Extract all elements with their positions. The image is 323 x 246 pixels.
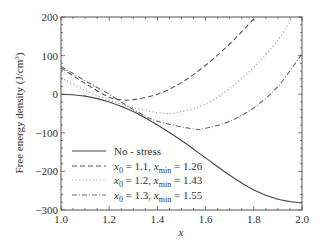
y-tick-label: −200 (35, 165, 58, 177)
curve-x0-1.1 (61, 15, 259, 100)
svg-text:x0 = 1.3, xmin = 1.55: x0 = 1.3, xmin = 1.55 (113, 189, 203, 204)
x-tick-label: 1.4 (151, 213, 165, 225)
x-tick-label: 1.6 (199, 213, 213, 225)
curve-x0-1.2 (61, 17, 292, 114)
svg-text:No - stress: No - stress (114, 145, 161, 157)
legend-item-x0-1.3: x0 = 1.3, xmin = 1.55 (72, 189, 203, 204)
x-axis-title: x (178, 226, 184, 238)
x-tick-label: 1.2 (102, 213, 116, 225)
free-energy-chart: 1.01.21.41.61.82.0−300−200−1000100200 x … (0, 0, 323, 246)
legend-item-x0-1.2: x0 = 1.2, xmin = 1.43 (72, 174, 203, 189)
y-tick-label: 0 (53, 88, 59, 100)
y-tick-label: 200 (42, 11, 59, 23)
y-axis-title: Free energy density (J/cm3) (13, 52, 26, 173)
svg-text:x0 = 1.1, xmin = 1.26: x0 = 1.1, xmin = 1.26 (113, 160, 203, 175)
curve-no-stress (61, 94, 302, 203)
legend: No - stress x0 = 1.1, xmin = 1.26 x0 = 1… (72, 145, 203, 204)
y-tick-label: −100 (35, 127, 58, 139)
svg-text:x0 = 1.2, xmin = 1.43: x0 = 1.2, xmin = 1.43 (113, 174, 203, 189)
y-tick-label: 100 (42, 50, 59, 62)
x-tick-label: 1.8 (247, 213, 261, 225)
legend-item-no-stress: No - stress (72, 145, 161, 157)
legend-item-x0-1.1: x0 = 1.1, xmin = 1.26 (72, 160, 203, 175)
y-tick-label: −300 (35, 204, 58, 216)
curve-x0-1.3 (61, 54, 302, 130)
x-tick-label: 2.0 (295, 213, 309, 225)
